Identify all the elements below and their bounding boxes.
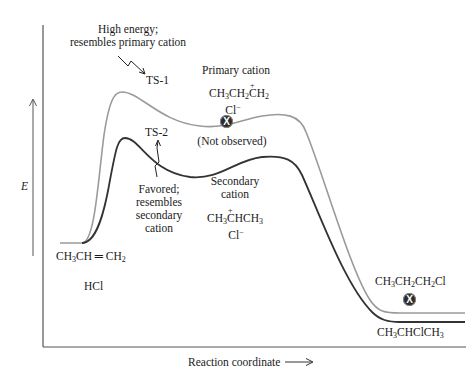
high-energy-line1: High energy; — [58, 23, 198, 36]
primary-cation-label: Primary cation — [190, 64, 282, 77]
ts1-label: TS-1 — [146, 74, 169, 87]
not-observed-x-icon: X — [220, 115, 233, 128]
reactant-propene: CH3CH ═ CH2 — [56, 250, 126, 266]
y-axis-label: E — [21, 180, 28, 193]
favored-line1: Favored; — [130, 183, 188, 196]
favored-line2: resembles — [130, 196, 188, 209]
secondary-line1: Secondary — [200, 175, 270, 188]
squiggle-arrow-ts1-icon — [118, 56, 145, 74]
secondary-chloride: Cl− — [221, 226, 251, 242]
favored-line4: cation — [130, 222, 188, 235]
primary-chloride: Cl− — [218, 101, 248, 117]
reactant-hcl: HCl — [84, 280, 103, 293]
ts2-label: TS-2 — [145, 126, 168, 139]
energy-arrow-icon — [30, 99, 37, 256]
product-not-formed-x-icon: X — [403, 293, 416, 306]
high-energy-annotation: High energy; resembles primary cation — [58, 23, 198, 49]
product-1-chloropropane: CH3CH2CH2Cl — [375, 275, 446, 291]
not-observed-label: (Not observed) — [182, 135, 282, 148]
squiggle-arrow-ts2-icon — [155, 140, 161, 177]
x-axis-label: Reaction coordinate — [188, 356, 280, 369]
secondary-line2: cation — [200, 188, 270, 201]
secondary-cation-label: Secondary cation — [200, 175, 270, 201]
favored-annotation: Favored; resembles secondary cation — [130, 183, 188, 235]
high-energy-line2: resembles primary cation — [58, 36, 198, 49]
reaction-coordinate-arrow-icon — [285, 359, 313, 366]
product-2-chloropropane: CH3CHClCH3 — [377, 326, 444, 342]
favored-line3: secondary — [130, 209, 188, 222]
